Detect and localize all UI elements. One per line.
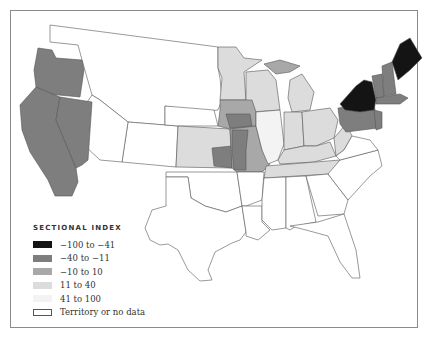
legend-item: 11 to 40 bbox=[33, 279, 145, 293]
legend-swatch bbox=[33, 282, 52, 289]
legend-swatch bbox=[33, 295, 52, 302]
region-iowa-south bbox=[226, 114, 252, 128]
legend-item: 41 to 100 bbox=[33, 292, 145, 306]
legend: SECTIONAL INDEX −100 to −41 −40 to −11 −… bbox=[33, 224, 145, 319]
region-maine bbox=[392, 38, 422, 80]
legend-label: −40 to −11 bbox=[60, 253, 110, 263]
legend-label: Territory or no data bbox=[60, 307, 145, 317]
region-michigan bbox=[288, 74, 314, 112]
region-colorado-territory bbox=[122, 122, 178, 167]
legend-item: −100 to −41 bbox=[33, 238, 145, 252]
legend-item: Territory or no data bbox=[33, 306, 145, 320]
legend-swatch bbox=[33, 268, 52, 275]
region-kansas-east bbox=[212, 146, 232, 168]
legend-item: −10 to 10 bbox=[33, 265, 145, 279]
region-arkansas bbox=[237, 172, 264, 206]
region-mississippi bbox=[262, 177, 286, 230]
legend-swatch bbox=[33, 241, 52, 248]
legend-title: SECTIONAL INDEX bbox=[33, 224, 145, 232]
region-new-york bbox=[340, 80, 376, 112]
region-indiana bbox=[284, 112, 304, 150]
legend-label: −100 to −41 bbox=[60, 240, 115, 250]
region-missouri-west bbox=[232, 130, 248, 170]
legend-item: −40 to −11 bbox=[33, 252, 145, 266]
region-ohio bbox=[302, 108, 338, 146]
legend-label: 41 to 100 bbox=[60, 294, 101, 304]
legend-swatch bbox=[33, 309, 52, 316]
legend-swatch bbox=[33, 255, 52, 262]
legend-label: 11 to 40 bbox=[60, 280, 96, 290]
legend-label: −10 to 10 bbox=[60, 267, 103, 277]
